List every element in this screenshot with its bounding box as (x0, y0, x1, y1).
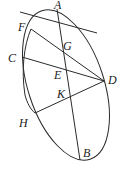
label-d: D (107, 73, 117, 87)
inner-arc (23, 29, 35, 113)
label-e: E (53, 68, 62, 82)
segment-cd (22, 57, 104, 81)
label-h: H (18, 116, 29, 130)
segment-fd (31, 29, 104, 81)
label-b: B (83, 146, 91, 160)
segment-hd (35, 81, 104, 113)
label-k: K (56, 87, 66, 101)
label-c: C (8, 51, 17, 65)
label-a: A (53, 0, 62, 12)
label-g: G (63, 39, 72, 53)
label-f: F (17, 20, 26, 34)
ellipse-geometry-diagram: A F G C E D K H B (0, 0, 127, 171)
segment-ab (57, 9, 80, 160)
